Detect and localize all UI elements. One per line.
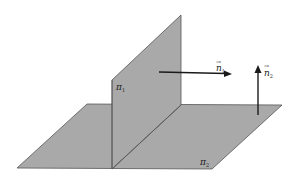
label-n1-subscript: 1 xyxy=(222,68,225,74)
perpendicular-planes-diagram: π1 π2 → n1 → n2 xyxy=(0,0,293,186)
label-pi1-subscript: 1 xyxy=(122,87,125,93)
label-n2-subscript: 2 xyxy=(270,73,273,79)
label-pi2-subscript: 2 xyxy=(206,162,209,168)
vector-n2-arrowhead xyxy=(255,65,262,73)
label-n1: n1 xyxy=(216,63,225,74)
label-n2: n2 xyxy=(264,68,273,79)
vector-n1-arrowhead xyxy=(224,71,232,78)
